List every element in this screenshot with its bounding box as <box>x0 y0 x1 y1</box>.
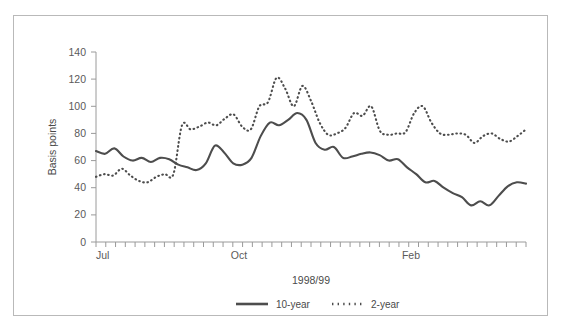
series-line-10-year <box>96 113 526 205</box>
y-tick-label-60: 60 <box>74 154 86 166</box>
y-tick-label-0: 0 <box>80 236 86 248</box>
y-tick-label-40: 40 <box>74 181 86 193</box>
y-tick-label-140: 140 <box>68 46 86 58</box>
legend-label-10-year: 10-year <box>276 299 311 310</box>
x-tick-marks <box>96 242 526 247</box>
x-tick-label-feb: Feb <box>402 249 420 261</box>
y-tick-label-120: 120 <box>68 73 86 85</box>
x-tick-label-jul: Jul <box>96 249 109 261</box>
x-axis-title: 1998/99 <box>292 274 330 286</box>
line-chart: 0 20 40 60 80 100 120 140 Jul Oct Feb 19… <box>14 16 547 315</box>
y-tick-label-80: 80 <box>74 127 86 139</box>
chart-frame: 0 20 40 60 80 100 120 140 Jul Oct Feb 19… <box>13 15 548 316</box>
legend-label-2-year: 2-year <box>371 299 400 310</box>
y-tick-label-100: 100 <box>68 100 86 112</box>
y-tick-marks <box>91 52 96 242</box>
y-axis-title: Basis points <box>46 119 58 176</box>
x-tick-label-oct: Oct <box>231 249 247 261</box>
chart-legend: 10-year 2-year <box>236 299 400 310</box>
y-tick-label-20: 20 <box>74 208 86 220</box>
